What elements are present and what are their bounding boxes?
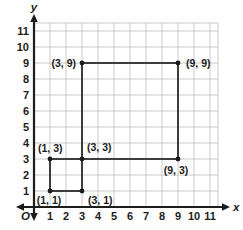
y-tick-label: 3 — [23, 153, 29, 165]
data-point — [48, 189, 53, 194]
point-label: (9, 3) — [164, 164, 189, 176]
y-tick-label: 5 — [23, 121, 29, 133]
y-axis-down-arrow — [30, 213, 38, 221]
y-axis-label: y — [30, 1, 38, 13]
y-axis-up-arrow — [30, 14, 38, 22]
x-tick-label: 8 — [159, 210, 165, 222]
x-tick-label: 3 — [79, 210, 85, 222]
x-tick-label: 4 — [95, 210, 102, 222]
y-tick-label: 7 — [23, 89, 29, 101]
y-tick-label: 9 — [23, 57, 29, 69]
origin-label: O — [21, 210, 30, 222]
point-label: (9, 9) — [186, 57, 211, 69]
y-tick-label: 8 — [23, 73, 29, 85]
x-tick-label: 1 — [47, 210, 53, 222]
data-point — [80, 189, 85, 194]
x-axis-right-arrow — [222, 203, 230, 211]
point-label: (3, 1) — [88, 194, 113, 206]
point-label: (3, 9) — [51, 57, 76, 69]
x-tick-label: 9 — [175, 210, 181, 222]
data-point — [48, 157, 53, 162]
x-tick-label: 6 — [127, 210, 133, 222]
y-tick-label: 10 — [17, 41, 29, 53]
coordinate-plane-figure: 12345678910111234567891011xyO(1, 1)(3, 1… — [0, 0, 243, 230]
coordinate-grid-chart: 12345678910111234567891011xyO(1, 1)(3, 1… — [0, 0, 243, 230]
data-point — [176, 61, 181, 66]
x-tick-label: 10 — [188, 210, 200, 222]
x-axis-label: x — [232, 201, 240, 213]
y-tick-label: 1 — [23, 185, 29, 197]
x-tick-label: 5 — [111, 210, 117, 222]
y-tick-label: 11 — [17, 25, 29, 37]
x-tick-label: 11 — [204, 210, 216, 222]
data-point — [80, 61, 85, 66]
point-label: (1, 3) — [38, 142, 63, 154]
point-label: (3, 3) — [87, 141, 112, 153]
point-label: (1, 1) — [37, 194, 62, 206]
y-tick-label: 6 — [23, 105, 29, 117]
y-tick-label: 4 — [23, 137, 30, 149]
x-tick-label: 2 — [63, 210, 69, 222]
data-point — [80, 157, 85, 162]
x-tick-label: 7 — [143, 210, 149, 222]
y-tick-label: 2 — [23, 169, 29, 181]
data-point — [176, 157, 181, 162]
